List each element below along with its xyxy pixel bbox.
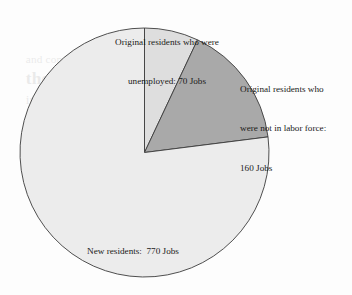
slice-label-original-unemployed: Original residents who were unemployed: … [84, 10, 250, 115]
slice-label-new-residents-line-1: New residents: 770 Jobs [58, 245, 208, 258]
slice-label-original-unemployed-line-2: unemployed: 70 Jobs [84, 75, 250, 88]
slice-label-new-residents: New residents: 770 Jobs [58, 219, 208, 284]
slice-label-original-unemployed-line-1: Original residents who were [84, 36, 250, 49]
slice-label-not-in-labor-force-line-3: 160 Jobs [240, 162, 352, 175]
slice-label-not-in-labor-force-line-1: Original residents who [240, 83, 352, 96]
slice-label-not-in-labor-force-line-2: were not in labor force: [240, 122, 352, 135]
pie-chart-figure: and compare the bank industry in New Yor… [0, 0, 352, 295]
slice-label-not-in-labor-force: Original residents who were not in labor… [240, 57, 352, 201]
